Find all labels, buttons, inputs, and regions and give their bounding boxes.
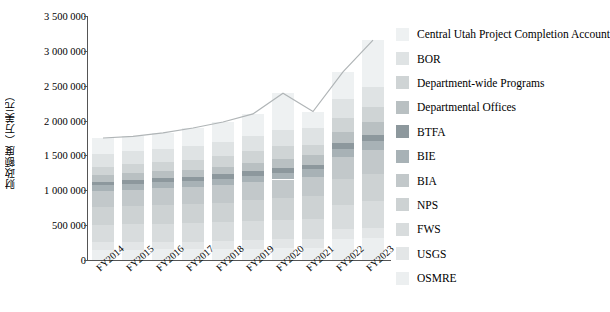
- bar-segment: [152, 205, 174, 224]
- legend-swatch-icon: [396, 247, 409, 260]
- bar-segment: [302, 128, 324, 145]
- bar-segment: [92, 175, 114, 182]
- bar-segment: [122, 224, 144, 241]
- legend-swatch-icon: [396, 174, 409, 187]
- bar-segment: [302, 196, 324, 218]
- y-tick-mark: [84, 86, 88, 87]
- bar-segment: [92, 182, 114, 186]
- bar-segment: [332, 205, 354, 229]
- bar-segment: [242, 176, 264, 183]
- chart-legend: Central Utah Project Completion AccountB…: [396, 22, 592, 290]
- bar-segment: [362, 150, 384, 174]
- y-tick-mark: [84, 16, 88, 17]
- bar-segment: [362, 135, 384, 141]
- legend-item[interactable]: OSMRE: [396, 266, 592, 290]
- bar-segment: [302, 169, 324, 176]
- bar-segment: [212, 142, 234, 156]
- legend-item-label: BIE: [417, 150, 436, 162]
- table-row: [182, 16, 204, 260]
- bar-segment: [182, 170, 204, 177]
- y-tick-label: 1 500 000: [44, 150, 86, 161]
- y-tick-label: 3 500 000: [44, 11, 86, 22]
- legend-item[interactable]: Department-wide Programs: [396, 71, 592, 95]
- bar-segment: [182, 242, 204, 250]
- legend-item-label: BOR: [417, 53, 441, 65]
- bar-segment: [332, 229, 354, 239]
- bar-segment: [182, 181, 204, 187]
- bar-segment: [92, 185, 114, 191]
- table-row: [152, 16, 174, 260]
- bar-segment: [152, 182, 174, 188]
- bar-segment: [122, 173, 144, 180]
- legend-item[interactable]: FWS: [396, 217, 592, 241]
- legend-swatch-icon: [396, 101, 409, 114]
- bar-segment: [212, 203, 234, 223]
- legend-item[interactable]: NPS: [396, 193, 592, 217]
- legend-swatch-icon: [396, 28, 409, 41]
- legend-item[interactable]: BIE: [396, 144, 592, 168]
- y-tick-mark: [84, 155, 88, 156]
- bar-segment: [122, 180, 144, 184]
- bar-segment: [92, 207, 114, 225]
- y-tick-label: 3 000 000: [44, 45, 86, 56]
- bar-segment: [362, 122, 384, 135]
- legend-item[interactable]: Central Utah Project Completion Account: [396, 22, 592, 46]
- legend-item-label: NPS: [417, 199, 438, 211]
- y-tick-mark: [84, 260, 88, 261]
- bar-segment: [92, 138, 114, 154]
- bar-segment: [362, 107, 384, 122]
- bar-segment: [212, 122, 234, 142]
- bar-segment: [272, 93, 294, 130]
- bar-segment: [362, 228, 384, 239]
- bar-segment: [182, 146, 204, 160]
- bar-segment: [122, 164, 144, 173]
- bar-segment: [332, 72, 354, 99]
- legend-item-label: Department-wide Programs: [417, 77, 544, 89]
- y-tick-label: 2 000 000: [44, 115, 86, 126]
- bar-segment: [152, 188, 174, 205]
- bar-segment: [92, 154, 114, 167]
- bar-segment: [242, 182, 264, 200]
- bar-segment: [362, 174, 384, 201]
- bar-segment: [182, 160, 204, 170]
- legend-item[interactable]: USGS: [396, 242, 592, 266]
- legend-item-label: BTFA: [417, 126, 446, 138]
- legend-item-label: Departmental Offices: [417, 101, 516, 113]
- bar-segment: [242, 240, 264, 248]
- bar-segment: [272, 146, 294, 159]
- bar-segment: [152, 162, 174, 171]
- legend-swatch-icon: [396, 198, 409, 211]
- bar-segment: [152, 178, 174, 182]
- bar-segment: [152, 242, 174, 250]
- table-row: [362, 16, 384, 260]
- bar-segment: [302, 239, 324, 248]
- bar-segment: [92, 167, 114, 175]
- legend-item[interactable]: BOR: [396, 46, 592, 70]
- legend-item[interactable]: BIA: [396, 168, 592, 192]
- bar-segment: [92, 225, 114, 242]
- bar-segment: [182, 223, 204, 241]
- table-row: [122, 16, 144, 260]
- bar-segment: [302, 219, 324, 239]
- legend-item-label: FWS: [417, 223, 441, 235]
- bar-segment: [302, 165, 324, 170]
- legend-item-label: OSMRE: [417, 272, 457, 284]
- bar-segment: [332, 118, 354, 132]
- bar-segment: [122, 206, 144, 224]
- legend-swatch-icon: [396, 125, 409, 138]
- bar-segment: [212, 156, 234, 166]
- bar-segment: [122, 151, 144, 164]
- bar-segment: [362, 201, 384, 227]
- bar-segment: [122, 184, 144, 190]
- legend-item[interactable]: BTFA: [396, 120, 592, 144]
- bar-segment: [362, 40, 384, 86]
- table-row: [212, 16, 234, 260]
- legend-swatch-icon: [396, 150, 409, 163]
- y-axis-line: [87, 16, 88, 260]
- table-row: [302, 16, 324, 260]
- legend-item[interactable]: Departmental Offices: [396, 95, 592, 119]
- bar-segment: [332, 179, 354, 204]
- bar-segment: [182, 204, 204, 223]
- bar-segment: [272, 198, 294, 220]
